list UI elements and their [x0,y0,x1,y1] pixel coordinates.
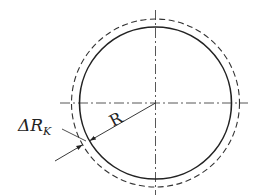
diagram-canvas: R ΔRK [0,0,259,195]
radius-label: R [106,108,126,131]
delta-leader-line [62,129,86,141]
delta-label-subscript: K [42,125,52,138]
delta-dimension-line [55,145,83,161]
delta-label-main: ΔR [17,115,43,135]
delta-label: ΔRK [17,115,52,138]
